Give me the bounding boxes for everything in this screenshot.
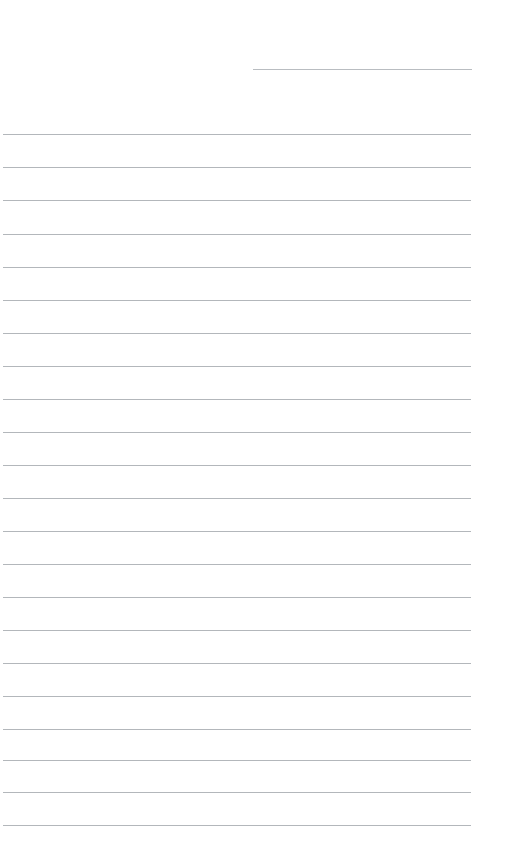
- rule-line[interactable]: [3, 729, 471, 730]
- rule-line[interactable]: [3, 465, 471, 466]
- lined-paper-page: [0, 0, 520, 863]
- rule-line[interactable]: [3, 792, 471, 793]
- rule-line[interactable]: [3, 760, 471, 761]
- rule-line[interactable]: [3, 399, 471, 400]
- rule-line[interactable]: [3, 825, 471, 826]
- rule-line[interactable]: [3, 234, 471, 235]
- rule-line[interactable]: [3, 630, 471, 631]
- rule-line[interactable]: [3, 663, 471, 664]
- rule-line[interactable]: [3, 531, 471, 532]
- rule-line[interactable]: [3, 300, 471, 301]
- rule-line[interactable]: [3, 696, 471, 697]
- rule-line[interactable]: [3, 597, 471, 598]
- rule-line[interactable]: [3, 333, 471, 334]
- rule-line[interactable]: [3, 200, 471, 201]
- rule-line[interactable]: [3, 564, 471, 565]
- rule-line[interactable]: [3, 167, 471, 168]
- rule-line[interactable]: [3, 134, 471, 135]
- rule-line[interactable]: [3, 432, 471, 433]
- rule-line[interactable]: [3, 366, 471, 367]
- header-blank-rule[interactable]: [253, 69, 472, 70]
- rule-line[interactable]: [3, 267, 471, 268]
- rule-line[interactable]: [3, 498, 471, 499]
